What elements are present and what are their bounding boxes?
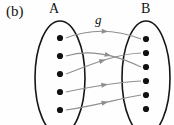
- set-ellipses-group: [35, 21, 170, 125]
- set-element-dot: [57, 89, 63, 95]
- diagram-canvas: [0, 0, 174, 125]
- set-element-dot: [143, 106, 149, 112]
- mapping-arrow: [66, 53, 141, 74]
- panel-label: (b): [6, 4, 24, 19]
- set-element-dot: [57, 71, 63, 77]
- arrowhead-icon: [102, 29, 109, 34]
- arrowhead-icon: [101, 99, 109, 105]
- set-element-dot: [143, 78, 149, 84]
- set-element-dot: [143, 92, 149, 98]
- arrowhead-icon: [99, 57, 107, 64]
- function-diagram-panel: (b) A B g: [0, 0, 174, 125]
- set-element-dot: [143, 36, 149, 42]
- set-element-dot: [143, 50, 149, 56]
- set-element-dot: [57, 107, 63, 113]
- set-element-dot: [57, 35, 63, 41]
- set-a-label: A: [49, 2, 59, 16]
- set-element-dot: [57, 53, 63, 59]
- function-label: g: [95, 13, 102, 26]
- set-element-dot: [143, 64, 149, 70]
- set-b-label: B: [141, 2, 150, 16]
- mapping-arrows-group: [66, 29, 141, 110]
- arrowhead-icon: [104, 52, 112, 58]
